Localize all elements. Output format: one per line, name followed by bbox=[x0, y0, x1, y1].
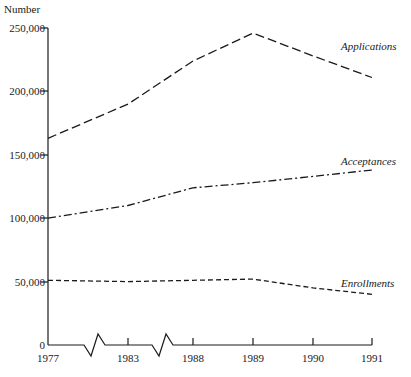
series-line-applications bbox=[48, 33, 372, 138]
series-label-enrollments: Enrollments bbox=[341, 277, 394, 289]
series-line-acceptances bbox=[48, 170, 372, 218]
x-axis-label-1989: 1989 bbox=[233, 352, 273, 364]
y-axis-label-0: 0 bbox=[0, 339, 45, 351]
line-chart: Number 250,000 200,000 150,000 100,000 5… bbox=[0, 0, 411, 377]
series-line-enrollments bbox=[48, 279, 372, 294]
y-axis-label-100000: 100,000 bbox=[0, 212, 45, 224]
y-axis-label-50000: 50,000 bbox=[0, 276, 45, 288]
series-label-acceptances: Acceptances bbox=[341, 155, 396, 167]
x-axis-label-1990: 1990 bbox=[293, 352, 333, 364]
y-axis-label-250000: 250,000 bbox=[0, 22, 45, 34]
y-axis-label-200000: 200,000 bbox=[0, 85, 45, 97]
x-axis-label-1991: 1991 bbox=[352, 352, 392, 364]
x-axis-label-1988: 1988 bbox=[173, 352, 213, 364]
x-axis-label-1977: 1977 bbox=[28, 352, 68, 364]
chart-canvas bbox=[0, 0, 411, 377]
y-axis-label-150000: 150,000 bbox=[0, 149, 45, 161]
x-axis-label-1983: 1983 bbox=[108, 352, 148, 364]
series-label-applications: Applications bbox=[341, 40, 397, 52]
